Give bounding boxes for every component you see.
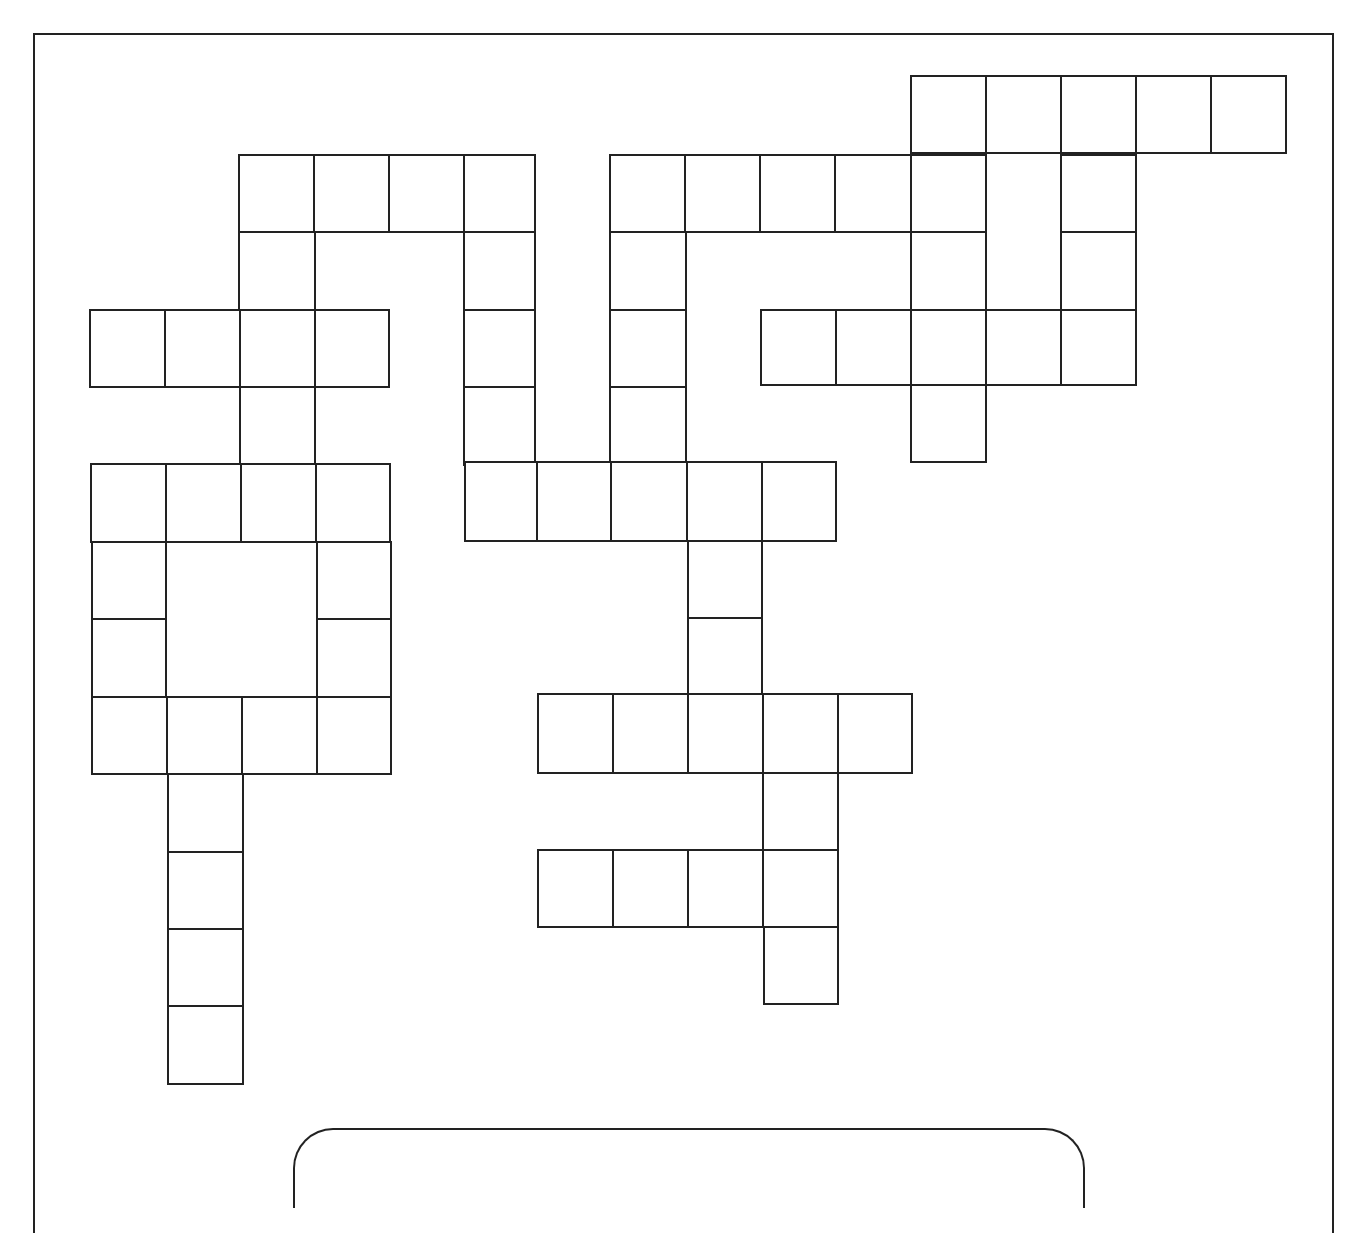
crossword-cell[interactable]: [315, 463, 391, 543]
crossword-cell[interactable]: [910, 154, 987, 233]
crossword-cell[interactable]: [314, 309, 390, 388]
crossword-cell[interactable]: [167, 928, 244, 1007]
crossword-cell[interactable]: [91, 541, 167, 620]
crossword-cell[interactable]: [686, 461, 763, 542]
crossword-cell[interactable]: [609, 231, 687, 311]
crossword-cell[interactable]: [761, 461, 837, 542]
crossword-cell[interactable]: [910, 75, 987, 154]
crossword-cell[interactable]: [837, 693, 913, 774]
crossword-cell[interactable]: [687, 693, 764, 774]
crossword-cell[interactable]: [835, 309, 912, 386]
crossword-cell[interactable]: [166, 696, 243, 775]
crossword-cell[interactable]: [1060, 75, 1137, 154]
crossword-cell[interactable]: [910, 309, 987, 386]
crossword-cell[interactable]: [316, 541, 392, 620]
crossword-cell[interactable]: [910, 384, 987, 463]
crossword-cell[interactable]: [610, 461, 688, 542]
crossword-cell[interactable]: [612, 849, 689, 928]
crossword-cell[interactable]: [985, 75, 1062, 154]
crossword-cell[interactable]: [687, 540, 763, 619]
crossword-cell[interactable]: [463, 386, 536, 466]
crossword-cell[interactable]: [316, 696, 392, 775]
crossword-cell[interactable]: [463, 154, 536, 233]
crossword-cell[interactable]: [537, 693, 614, 774]
crossword-cell[interactable]: [834, 154, 912, 233]
crossword-cell[interactable]: [1060, 309, 1137, 386]
crossword-cell[interactable]: [1060, 154, 1137, 233]
crossword-cell[interactable]: [239, 386, 316, 466]
crossword-cell[interactable]: [463, 309, 536, 388]
crossword-cell[interactable]: [762, 693, 839, 774]
crossword-cell[interactable]: [167, 773, 244, 853]
crossword-cell[interactable]: [164, 309, 241, 388]
crossword-cell[interactable]: [316, 618, 392, 698]
crossword-cell[interactable]: [1210, 75, 1287, 154]
crossword-cell[interactable]: [760, 309, 837, 386]
crossword-cell[interactable]: [1135, 75, 1212, 154]
crossword-cell[interactable]: [167, 1005, 244, 1085]
crossword-cell[interactable]: [388, 154, 465, 233]
crossword-cell[interactable]: [463, 231, 536, 311]
crossword-cell[interactable]: [609, 309, 687, 388]
crossword-cell[interactable]: [165, 463, 242, 543]
crossword-cell[interactable]: [238, 231, 316, 311]
crossword-cell[interactable]: [985, 309, 1062, 386]
crossword-cell[interactable]: [464, 461, 539, 542]
crossword-cell[interactable]: [687, 849, 764, 928]
crossword-cell[interactable]: [91, 618, 167, 698]
crossword-cell[interactable]: [89, 309, 166, 388]
clue-panel: [293, 1128, 1085, 1208]
crossword-cell[interactable]: [239, 309, 316, 388]
crossword-cell[interactable]: [759, 154, 836, 233]
crossword-cell[interactable]: [612, 693, 689, 774]
crossword-cell[interactable]: [238, 154, 316, 233]
crossword-cell[interactable]: [910, 231, 987, 311]
crossword-cell[interactable]: [241, 696, 318, 775]
crossword-cell[interactable]: [684, 154, 761, 233]
crossword-cell[interactable]: [763, 926, 839, 1005]
crossword-cell[interactable]: [537, 849, 614, 928]
crossword-cell[interactable]: [313, 154, 390, 233]
crossword-cell[interactable]: [609, 386, 687, 466]
crossword-cell[interactable]: [90, 463, 167, 543]
crossword-cell[interactable]: [609, 154, 687, 233]
crossword-cell[interactable]: [536, 461, 612, 542]
crossword-cell[interactable]: [167, 851, 244, 930]
crossword-cell[interactable]: [762, 849, 839, 928]
crossword-cell[interactable]: [91, 696, 168, 775]
crossword-cell[interactable]: [240, 463, 317, 543]
crossword-cell[interactable]: [1060, 231, 1137, 311]
crossword-cell[interactable]: [762, 772, 839, 851]
crossword-cell[interactable]: [687, 617, 763, 696]
